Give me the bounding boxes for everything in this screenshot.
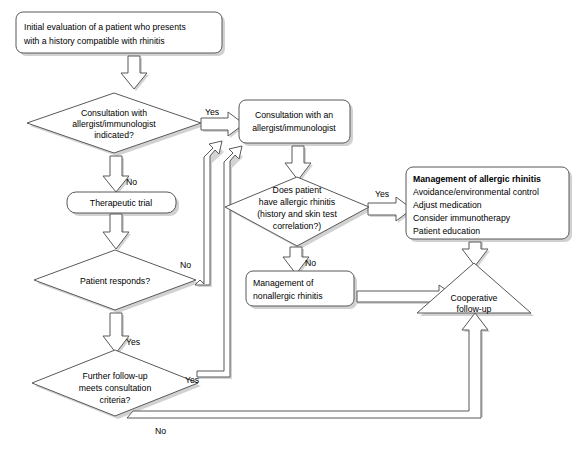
patient-responds-label: Patient responds? bbox=[80, 276, 150, 286]
further-followup-line-1: Further follow-up bbox=[82, 371, 147, 381]
consult-allergist-line-2: allergist/immunologist bbox=[252, 123, 336, 133]
edge-label-responds-no: No bbox=[180, 260, 191, 270]
management-allergic-item-3: Consider immunotherapy bbox=[413, 213, 511, 223]
management-allergic-item-1: Avoidance/environmental control bbox=[413, 187, 539, 197]
arrow-followup-no-to-cooperative bbox=[127, 313, 488, 418]
management-allergic-item-2: Adjust medication bbox=[413, 200, 482, 210]
flowchart-canvas: Initial evaluation of a patient who pres… bbox=[0, 0, 579, 456]
start-line-1: Initial evaluation of a patient who pres… bbox=[24, 22, 186, 32]
allergic-question-line-4: correlation?) bbox=[273, 221, 321, 231]
edge-label-responds-yes: Yes bbox=[126, 337, 141, 347]
edge-label-followup-no: No bbox=[155, 426, 166, 436]
arrow-management-to-cooperative bbox=[462, 242, 488, 266]
edge-label-consult-yes: Yes bbox=[205, 107, 220, 117]
flowchart-svg: Initial evaluation of a patient who pres… bbox=[0, 0, 579, 456]
edge-label-consult-no: No bbox=[126, 177, 137, 187]
node-consult-allergist bbox=[239, 100, 350, 143]
edge-label-followup-yes: Yes bbox=[185, 375, 200, 385]
consult-indicated-line-2: allergist/immunologist bbox=[72, 119, 156, 129]
further-followup-line-2: meets consultation bbox=[79, 383, 152, 393]
consult-indicated-line-3: indicated? bbox=[94, 130, 134, 140]
cooperative-followup-line-1: Cooperative bbox=[451, 293, 498, 303]
edge-label-allergic-yes: Yes bbox=[375, 189, 390, 199]
allergic-question-line-1: Does patient bbox=[273, 185, 322, 195]
arrow-consult-to-allergic-question bbox=[285, 146, 311, 180]
arrow-start-to-consult-indicated bbox=[121, 56, 147, 89]
cooperative-followup-line-2: follow-up bbox=[457, 304, 492, 314]
management-allergic-heading: Management of allergic rhinitis bbox=[413, 174, 541, 184]
edge-label-allergic-no: No bbox=[305, 258, 316, 268]
consult-allergist-line-1: Consultation with an bbox=[255, 110, 333, 120]
node-start bbox=[16, 12, 222, 53]
allergic-question-line-3: (history and skin test bbox=[257, 209, 337, 219]
further-followup-line-3: criteria? bbox=[100, 395, 131, 405]
allergic-question-line-2: have allergic rhinitis bbox=[259, 197, 336, 207]
arrow-responds-yes-to-followup bbox=[103, 313, 129, 353]
therapeutic-trial-label: Therapeutic trial bbox=[90, 198, 152, 208]
start-line-2: with a history compatible with rhinitis bbox=[23, 36, 165, 46]
management-allergic-item-4: Patient education bbox=[413, 226, 480, 236]
arrow-responds-no-to-consult bbox=[195, 141, 222, 285]
consult-indicated-line-1: Consultation with bbox=[81, 108, 147, 118]
management-nonallergic-line-2: nonallergic rhinitis bbox=[253, 291, 323, 301]
management-nonallergic-line-1: Management of bbox=[253, 278, 314, 288]
arrow-therapeutic-to-responds bbox=[103, 214, 129, 249]
